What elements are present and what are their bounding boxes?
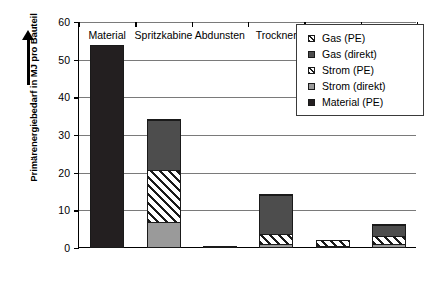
legend-swatch-material-icon — [308, 99, 315, 106]
y-axis-tick-label: 10 — [40, 205, 70, 216]
bar-spritzkabine — [147, 119, 181, 247]
bar-abdunsten — [203, 246, 237, 247]
y-axis-tick-label: 20 — [40, 168, 70, 179]
y-axis-tick-label: 40 — [40, 92, 70, 103]
x-axis-label-abdunsten: Abdunsten — [195, 29, 245, 41]
x-axis-label-spritzkabine: Spritzkabine — [135, 29, 193, 41]
y-axis-tick-label: 50 — [40, 55, 70, 66]
legend-swatch-stromdirekt-icon — [308, 83, 315, 90]
y-axis-tick — [74, 210, 79, 211]
y-axis-title: Primärenergiebedarf in MJ pro Bauteil — [28, 13, 39, 183]
bar-segment-strompe — [203, 246, 237, 248]
bar-kühlzone — [316, 240, 350, 247]
bar-segment-stromdirekt — [259, 244, 293, 248]
bar-peripherie — [372, 224, 406, 247]
legend-label: Gas (direkt) — [322, 49, 377, 60]
legend-item: Strom (PE) — [297, 62, 423, 78]
legend-label: Gas (PE) — [322, 33, 365, 44]
bar-segment-stromdirekt — [372, 244, 406, 248]
bar-segment-material — [90, 45, 124, 248]
primary-energy-bar-chart: Primärenergiebedarf in MJ pro Bauteil 01… — [0, 0, 435, 282]
x-axis-label-material: Material — [88, 29, 125, 41]
chart-legend: Gas (PE)Gas (direkt)Strom (PE)Strom (dir… — [296, 24, 424, 116]
legend-item: Gas (PE) — [297, 30, 423, 46]
x-axis-tick — [192, 22, 193, 27]
y-axis-tick-label: 30 — [40, 130, 70, 141]
gridline — [79, 135, 416, 136]
y-axis-tick — [74, 135, 79, 136]
bar-segment-strompe — [147, 170, 181, 223]
bar-segment-gasdirekt — [259, 195, 293, 235]
y-axis-tick — [74, 248, 79, 249]
legend-item: Strom (direkt) — [297, 78, 423, 94]
bar-segment-gasdirekt — [147, 120, 181, 171]
legend-swatch-gaspe-icon — [308, 35, 315, 42]
y-axis-tick — [74, 97, 79, 98]
bar-trockner — [259, 194, 293, 247]
legend-swatch-strompe-icon — [308, 67, 315, 74]
x-axis-tick — [248, 22, 249, 27]
x-axis-label-trockner: Trockner — [256, 29, 297, 41]
y-axis-tick — [74, 173, 79, 174]
legend-label: Strom (direkt) — [322, 81, 386, 92]
bar-segment-stromdirekt — [316, 246, 350, 248]
y-axis-tick-label: 0 — [40, 243, 70, 254]
y-axis-tick — [74, 60, 79, 61]
legend-item: Material (PE) — [297, 94, 423, 110]
legend-swatch-gasdirekt-icon — [308, 51, 315, 58]
legend-label: Strom (PE) — [322, 65, 374, 76]
gridline — [79, 173, 416, 174]
y-axis-tick-label: 60 — [40, 17, 70, 28]
gridline — [79, 210, 416, 211]
x-axis-tick — [135, 22, 136, 27]
legend-item: Gas (direkt) — [297, 46, 423, 62]
bar-segment-stromdirekt — [147, 222, 181, 248]
legend-label: Material (PE) — [322, 97, 383, 108]
bar-material — [90, 45, 124, 247]
x-axis-tick — [79, 22, 80, 27]
